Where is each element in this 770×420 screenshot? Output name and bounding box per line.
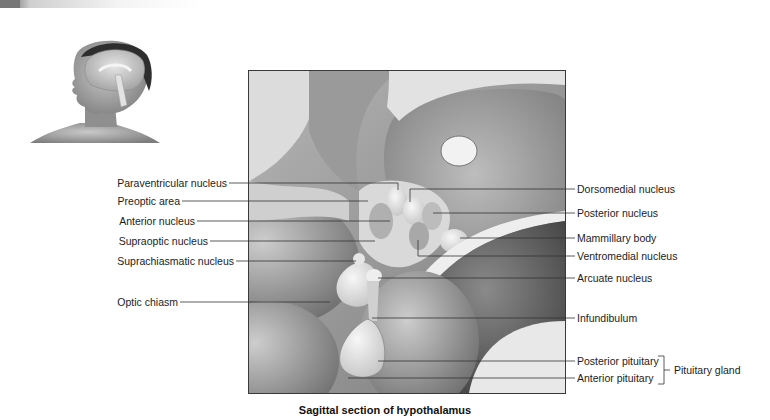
ventromedial-nucleus-shape	[409, 222, 429, 250]
label-optic-chiasm: Optic chiasm	[117, 296, 178, 308]
label-pituitary-gland: Pituitary gland	[674, 364, 741, 376]
top-edge-strip	[0, 0, 200, 8]
label-posterior-pituitary: Posterior pituitary	[577, 355, 659, 367]
label-mammillary-body: Mammillary body	[577, 232, 656, 244]
head-inset-illustration	[25, 35, 165, 147]
label-anterior-nucleus: Anterior nucleus	[119, 215, 195, 227]
top-edge-photo-fragment	[0, 0, 20, 8]
dorsomedial-nucleus-shape	[403, 197, 425, 225]
label-infundibulum: Infundibulum	[577, 312, 637, 324]
suprachiasmatic-shape	[353, 253, 365, 265]
label-ventromedial-nucleus: Ventromedial nucleus	[577, 250, 677, 262]
anterior-nucleus-shape	[369, 203, 393, 239]
label-posterior-nucleus: Posterior nucleus	[577, 207, 658, 219]
infundibulum-stalk	[367, 281, 379, 321]
label-anterior-pituitary: Anterior pituitary	[577, 372, 653, 384]
label-arcuate-nucleus: Arcuate nucleus	[577, 272, 652, 284]
hypothalamus-illustration	[249, 71, 565, 393]
hypothalamus-illustration-frame	[248, 70, 566, 394]
interthalamic-adhesion	[441, 136, 477, 166]
label-dorsomedial-nucleus: Dorsomedial nucleus	[577, 183, 675, 195]
figure-caption: Sagittal section of hypothalamus	[0, 404, 770, 416]
label-suprachiasmatic-nucleus: Suprachiasmatic nucleus	[117, 255, 234, 267]
label-preoptic-area: Preoptic area	[118, 195, 180, 207]
label-paraventricular-nucleus: Paraventricular nucleus	[117, 177, 227, 189]
label-supraoptic-nucleus: Supraoptic nucleus	[119, 235, 208, 247]
brain	[85, 50, 145, 91]
arcuate-shape	[366, 269, 382, 283]
